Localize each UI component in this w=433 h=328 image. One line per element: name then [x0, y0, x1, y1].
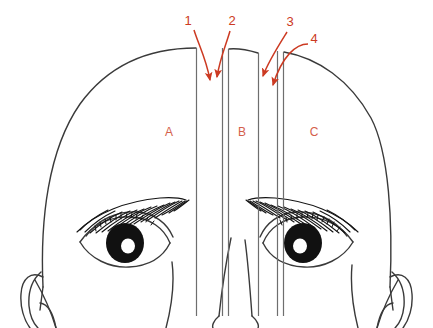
annotation-labels-group: 1 2 3 4	[184, 13, 317, 46]
region-label-a: A	[165, 125, 173, 139]
diagram-canvas: 1 2 3 4 A B C	[0, 0, 433, 328]
strip-lines-group	[197, 48, 284, 316]
forehead-strip-diagram: 1 2 3 4 A B C	[0, 0, 433, 328]
ear-left-antihelix	[35, 280, 56, 328]
annotation-label-2: 2	[228, 13, 235, 28]
nose-bridge-left	[219, 238, 231, 316]
arrow-4	[273, 44, 308, 85]
region-label-c: C	[310, 125, 319, 139]
nose-wing-right	[252, 316, 258, 328]
cranium-center-arc	[229, 49, 258, 53]
cheek-left-contour	[166, 262, 173, 328]
nose-wing-left	[213, 316, 219, 328]
region-label-b: B	[238, 125, 246, 139]
region-labels-group: A B C	[165, 125, 319, 139]
annotation-label-3: 3	[286, 14, 293, 29]
nose-bridge-right	[245, 240, 252, 316]
eye-left-pupil-highlight	[121, 239, 135, 254]
ear-left-tragus	[40, 303, 56, 328]
annotation-label-1: 1	[184, 13, 191, 28]
head-outline-group	[21, 48, 412, 328]
cheek-right-contour	[351, 265, 358, 328]
annotation-label-4: 4	[310, 31, 317, 46]
eye-right-group	[260, 212, 353, 267]
annotation-arrows-group	[194, 30, 308, 85]
ear-right-antihelix	[377, 280, 398, 328]
eye-right-pupil-highlight	[293, 239, 307, 254]
ear-right-tragus	[377, 303, 393, 328]
